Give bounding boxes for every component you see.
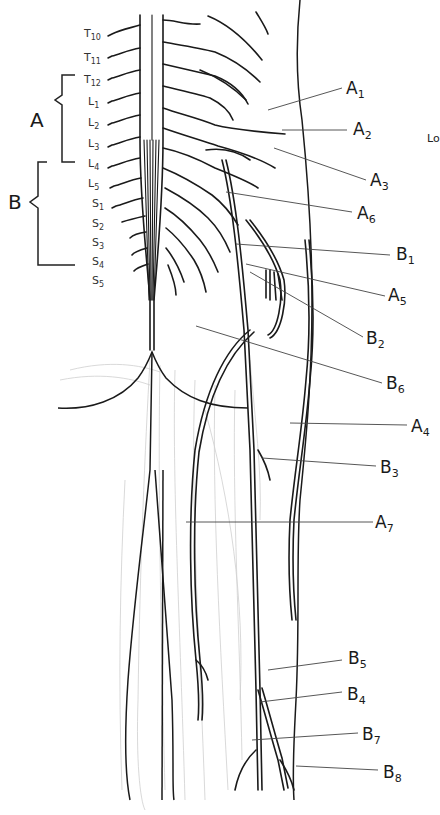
segment-label-l1: L1 xyxy=(88,96,99,110)
spinal-cord xyxy=(140,15,163,350)
callout-a2: A2 xyxy=(353,121,372,141)
callout-b6: B6 xyxy=(386,375,405,395)
bracket-group-a xyxy=(55,75,75,162)
segment-label-s1: S1 xyxy=(92,198,104,212)
segment-label-t12: T12 xyxy=(84,74,101,88)
callout-a7: A7 xyxy=(375,514,394,534)
group-label-b: B xyxy=(8,190,22,214)
callout-a5: A5 xyxy=(388,287,407,307)
right-spinal-roots xyxy=(163,12,285,295)
segment-label-s2: S2 xyxy=(92,218,104,232)
segment-label-t10: T10 xyxy=(84,28,101,42)
left-spinal-roots xyxy=(108,25,148,271)
segment-label-s5: S5 xyxy=(92,275,104,289)
thigh-muscle-shading xyxy=(60,360,260,810)
segment-label-l4: L4 xyxy=(88,158,99,172)
segment-label-s4: S4 xyxy=(92,256,104,270)
callout-b1: B1 xyxy=(396,246,415,266)
callout-b2: B2 xyxy=(366,330,385,350)
callout-a6: A6 xyxy=(357,205,376,225)
segment-label-l3: L3 xyxy=(88,138,99,152)
segment-label-l5: L5 xyxy=(88,178,99,192)
callout-a3: A3 xyxy=(370,172,389,192)
cropped-title-fragment: Lo xyxy=(427,132,440,145)
callout-b3: B3 xyxy=(380,459,399,479)
callout-a1: A1 xyxy=(346,80,365,100)
callout-b8: B8 xyxy=(383,764,402,784)
callout-b5: B5 xyxy=(348,650,367,670)
bracket-group-b xyxy=(30,162,75,265)
segment-label-s3: S3 xyxy=(92,237,104,251)
callout-b7: B7 xyxy=(362,726,381,746)
segment-label-l2: L2 xyxy=(88,117,99,131)
callout-b4: B4 xyxy=(347,686,366,706)
group-label-a: A xyxy=(30,108,44,132)
segment-label-t11: T11 xyxy=(84,52,101,66)
callout-a4: A4 xyxy=(411,418,430,438)
